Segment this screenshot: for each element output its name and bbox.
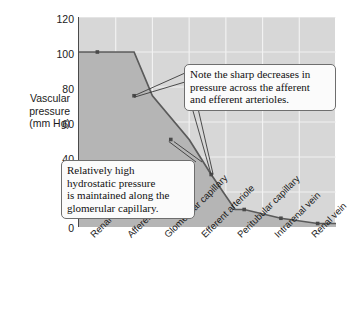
- callout-glomerular-line-1: Relatively high: [67, 164, 189, 177]
- y-tick-label-60: 60: [52, 118, 74, 130]
- y-tick-label-100: 100: [52, 48, 74, 60]
- callout-arterioles-line-3: and efferent arterioles.: [190, 93, 330, 106]
- y-tick-label-120: 120: [52, 13, 74, 25]
- y-tick-label-80: 80: [52, 83, 74, 95]
- callout-arterioles-line-2: pressure across the afferent: [190, 81, 330, 94]
- callout-glomerular-line-4: glomerular capillary.: [67, 202, 189, 215]
- y-tick-label-0: 0: [52, 222, 74, 234]
- callout-glomerular-line-2: hydrostatic pressure: [67, 177, 189, 190]
- callout-arterioles: Note the sharp decreases in pressure acr…: [184, 64, 336, 111]
- chart-figure: Vascular pressure (mm Hg) 120 100 80 60 …: [0, 0, 350, 321]
- callout-arterioles-line-1: Note the sharp decreases in: [190, 68, 330, 81]
- callout-glomerular: Relatively high hydrostatic pressure is …: [61, 160, 195, 219]
- callout-glomerular-line-3: is maintained along the: [67, 189, 189, 202]
- y-axis-title-line-2: pressure: [4, 105, 70, 118]
